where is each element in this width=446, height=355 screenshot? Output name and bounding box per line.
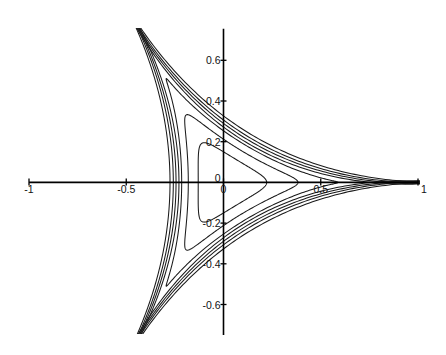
y-tick-label: 0	[215, 172, 221, 184]
open-contour-2	[112, 0, 446, 355]
x-tick-label: 1	[421, 183, 427, 195]
contour-lines	[112, 0, 446, 355]
contour-plot: -1-0.500.510.60.40.20-0.2-0.4-0.6	[0, 0, 446, 355]
open-contour-side	[112, 0, 446, 183]
x-tick-label: 0	[221, 183, 227, 195]
y-tick-label: -0.2	[202, 217, 220, 229]
y-tick-label: 0.2	[206, 136, 221, 148]
y-tick-label: -0.4	[202, 258, 220, 270]
open-contour-side	[112, 181, 446, 355]
x-tick-label: 0.5	[313, 183, 328, 195]
y-tick-label: 0.4	[206, 95, 221, 107]
open-contour-side	[112, 0, 446, 182]
open-contour-side	[112, 0, 446, 184]
open-contour-side	[112, 0, 179, 355]
y-tick-label: -0.6	[202, 299, 220, 311]
x-tick-label: -1	[24, 183, 33, 195]
open-contour-side	[112, 0, 170, 355]
x-tick-label: -0.5	[117, 183, 135, 195]
open-contour-side	[112, 0, 176, 355]
y-tick-label: 0.6	[206, 54, 221, 66]
